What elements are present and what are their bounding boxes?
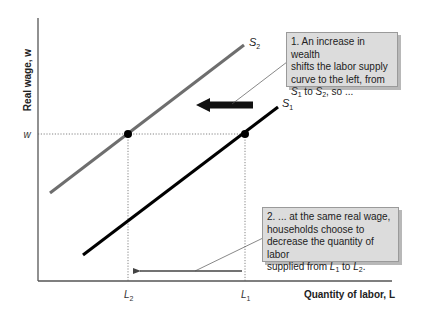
x-tick-l2: L2 [124,289,134,302]
s2-curve [50,45,244,193]
callout-2-leader [195,238,263,271]
callout-1-line-4: S1 to S2, so ... [291,86,393,99]
equilibrium-point-s2 [124,130,132,138]
s1-label: S1 [282,97,293,111]
callout-2-line-4: supplied from L1 to L2. [267,261,394,274]
callout-wealth-shift: 1. An increase in wealth shifts the labo… [286,32,398,87]
s2-label: S2 [249,36,260,50]
equilibrium-point-s1 [241,130,249,138]
callout-1-line-2: shifts the labor supply [291,61,393,74]
y-axis-title: Real wage, w [22,49,33,111]
s1-curve [83,107,278,255]
callout-2-line-2: households choose to [267,224,394,237]
callout-1-line-1: 1. An increase in wealth [291,36,393,61]
x-tick-l1: L1 [241,289,251,302]
callout-1-leader [232,62,287,104]
callout-2-line-3: decrease the quantity of labor [267,236,394,261]
callout-1-line-3: curve to the left, from [291,74,393,87]
y-tick-w: w [23,129,31,140]
callout-2-line-1: 2. ... at the same real wage, [267,211,394,224]
callout-quantity-decrease: 2. ... at the same real wage, households… [262,207,399,262]
x-axis-title: Quantity of labor, L [304,289,395,300]
shift-arrow [196,98,253,112]
